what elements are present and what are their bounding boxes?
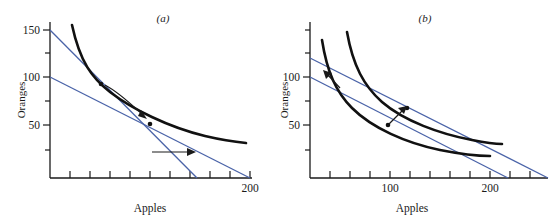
economics-figure: 150 100 50 200 Oranges Apples (a): [0, 0, 554, 221]
panel-b-label: (b): [419, 12, 432, 25]
panel-a-x-axis-label: Apples: [134, 202, 167, 215]
panel-a-label: (a): [157, 12, 170, 25]
panel-a-x-ticks: [70, 171, 250, 178]
panel-a-xtick-label-200: 200: [241, 182, 259, 194]
panel-b-xtick-label-100: 100: [381, 182, 399, 194]
panel-b-x-axis-label: Apples: [396, 202, 429, 215]
panel-b-ytick-label-100: 100: [283, 71, 301, 83]
panel-a-ytick-label-150: 150: [23, 24, 41, 36]
panel-a-indifference-curve: [72, 25, 246, 143]
panel-b-y-ticks: [303, 30, 310, 150]
panel-a-tangency-point-initial: [99, 82, 104, 87]
panel-b-xtick-label-200: 200: [481, 182, 499, 194]
panel-b: 100 50 100 200 Oranges Apples (b): [278, 12, 548, 215]
panel-b-budget-line-shifted: [310, 58, 548, 178]
panel-a-y-axis-label: Oranges: [15, 82, 27, 119]
panel-b-ytick-label-50: 50: [289, 119, 301, 131]
panel-a-tangency-point-final: [148, 122, 153, 127]
panel-a-y-ticks: [43, 30, 50, 150]
panel-b-indifference-curve-upper: [347, 32, 502, 144]
panel-a-ytick-label-100: 100: [23, 71, 41, 83]
panel-b-y-axis-label: Oranges: [278, 82, 290, 119]
panel-a: 150 100 50 200 Oranges Apples (a): [15, 12, 259, 215]
panel-a-budget-line-original: [50, 77, 250, 178]
panel-a-budget-line-rotated: [50, 30, 197, 178]
figure-canvas: 150 100 50 200 Oranges Apples (a): [0, 0, 554, 221]
panel-a-ytick-label-50: 50: [29, 119, 41, 131]
